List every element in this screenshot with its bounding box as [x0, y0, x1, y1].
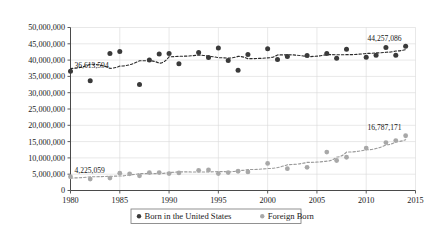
y-axis: 05,000,00010,000,00015,000,00020,000,000…	[28, 23, 70, 195]
data-label: 16,787,171	[367, 123, 401, 132]
x-axis: 19801985199019952000200520102015	[62, 191, 423, 206]
x-tick-label: 1995	[210, 196, 226, 205]
data-point-born-in-us	[393, 53, 398, 58]
data-point-born-in-us	[137, 82, 142, 87]
data-point-foreign-born	[68, 174, 73, 179]
x-tick-label: 1985	[112, 196, 128, 205]
data-point-foreign-born	[334, 158, 339, 163]
data-point-foreign-born	[265, 161, 270, 166]
data-point-born-in-us	[334, 56, 339, 61]
data-point-foreign-born	[384, 140, 389, 145]
data-point-born-in-us	[167, 51, 172, 56]
data-point-foreign-born	[147, 170, 152, 175]
data-point-born-in-us	[196, 50, 201, 55]
data-point-born-in-us	[344, 47, 349, 52]
data-point-foreign-born	[226, 170, 231, 175]
y-tick-label: 5,000,000	[32, 170, 65, 179]
data-points-born-in-us	[68, 44, 408, 87]
data-point-foreign-born	[285, 166, 290, 171]
legend-label[interactable]: Born in the United States	[145, 211, 233, 221]
chart-legend[interactable]: Born in the United StatesForeign Born	[131, 209, 315, 224]
data-point-foreign-born	[177, 171, 182, 176]
data-point-born-in-us	[157, 51, 162, 56]
y-tick-label: 25,000,000	[28, 105, 65, 114]
data-point-born-in-us	[176, 61, 181, 66]
data-point-born-in-us	[226, 58, 231, 63]
y-tick-label: 30,000,000	[28, 89, 65, 98]
data-point-foreign-born	[403, 133, 408, 138]
data-point-born-in-us	[374, 53, 379, 58]
chart-svg: 05,000,00010,000,00015,000,00020,000,000…	[0, 0, 426, 233]
data-point-born-in-us	[117, 49, 122, 54]
x-tick-label: 2000	[259, 196, 275, 205]
y-tick-label: 20,000,000	[28, 121, 65, 130]
y-tick-label: 45,000,000	[28, 40, 65, 49]
data-point-foreign-born	[206, 168, 211, 173]
data-point-born-in-us	[245, 52, 250, 57]
y-tick-label: 40,000,000	[28, 56, 65, 65]
data-point-foreign-born	[157, 170, 162, 175]
data-point-foreign-born	[324, 150, 329, 155]
legend-marker-icon	[260, 214, 264, 218]
data-point-born-in-us	[275, 57, 280, 62]
data-point-foreign-born	[305, 165, 310, 170]
y-tick-label: 10,000,000	[28, 154, 65, 163]
data-point-foreign-born	[393, 138, 398, 143]
data-point-foreign-born	[117, 171, 122, 176]
data-point-born-in-us	[206, 55, 211, 60]
data-point-foreign-born	[196, 168, 201, 173]
data-point-born-in-us	[68, 69, 73, 74]
data-point-foreign-born	[88, 177, 93, 182]
y-tick-label: 35,000,000	[28, 72, 65, 81]
y-tick-label: 15,000,000	[28, 138, 65, 147]
x-tick-label: 2005	[309, 196, 325, 205]
data-point-foreign-born	[344, 155, 349, 160]
data-point-foreign-born	[137, 173, 142, 178]
data-point-born-in-us	[107, 51, 112, 56]
legend-label[interactable]: Foreign Born	[268, 211, 315, 221]
data-point-born-in-us	[383, 45, 388, 50]
data-point-born-in-us	[305, 53, 310, 58]
data-label: 36,613,594	[75, 61, 109, 70]
x-tick-label: 1980	[62, 196, 78, 205]
data-point-born-in-us	[216, 46, 221, 51]
x-tick-label: 1990	[161, 196, 177, 205]
chart-container: 05,000,00010,000,00015,000,00020,000,000…	[0, 0, 426, 233]
data-point-foreign-born	[364, 146, 369, 151]
y-tick-label: 0	[61, 186, 65, 195]
data-label: 44,257,086	[367, 34, 401, 43]
data-point-born-in-us	[88, 78, 93, 83]
data-label: 4,225,059	[75, 166, 106, 175]
data-point-born-in-us	[285, 54, 290, 59]
x-tick-label: 2010	[358, 196, 374, 205]
data-point-born-in-us	[364, 55, 369, 60]
data-point-born-in-us	[403, 44, 408, 49]
x-tick-label: 2015	[407, 196, 423, 205]
data-point-foreign-born	[216, 171, 221, 176]
data-point-foreign-born	[127, 171, 132, 176]
data-point-born-in-us	[147, 58, 152, 63]
legend-marker-icon	[137, 214, 141, 218]
data-point-born-in-us	[236, 68, 241, 73]
data-point-foreign-born	[246, 170, 251, 175]
y-tick-label: 50,000,000	[28, 23, 65, 32]
data-point-foreign-born	[236, 169, 241, 174]
data-point-foreign-born	[108, 176, 113, 181]
data-point-born-in-us	[324, 51, 329, 56]
data-point-foreign-born	[167, 171, 172, 176]
data-point-born-in-us	[265, 46, 270, 51]
